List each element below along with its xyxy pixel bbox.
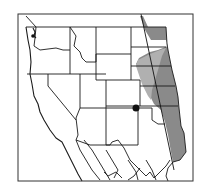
range-map: [0, 0, 206, 193]
seattle-marker: [31, 34, 35, 38]
shaded-range: [136, 16, 186, 162]
location-marker: [133, 105, 140, 112]
